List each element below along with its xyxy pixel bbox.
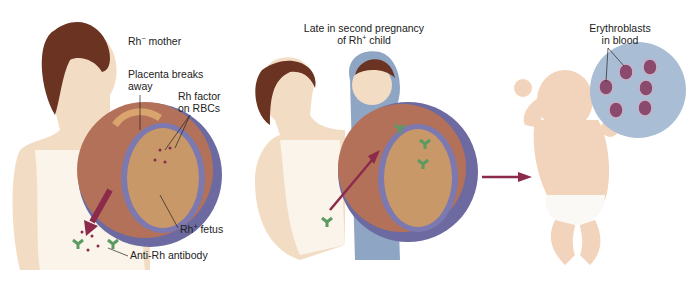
label-rh-positive-fetus: Rh+ fetus <box>180 223 223 235</box>
label-anti-rh-antibody: Anti-Rh antibody <box>130 249 208 261</box>
label-placenta-breaks-away: Placenta breaksaway <box>128 68 203 92</box>
label-second-pregnancy-caption: Late in second pregnancyof Rh+ child <box>294 22 434 46</box>
transition-arrow-head-icon <box>518 172 532 182</box>
blood-magnification-circle <box>590 42 686 138</box>
label-rh-negative-mother: Rh− mother <box>128 35 181 47</box>
label-rh-factor-on-rbcs: Rh factoron RBCs <box>178 90 221 114</box>
label-erythroblasts-in-blood: Erythroblastsin blood <box>580 22 660 46</box>
uterus-cutaway-2 <box>338 102 478 242</box>
